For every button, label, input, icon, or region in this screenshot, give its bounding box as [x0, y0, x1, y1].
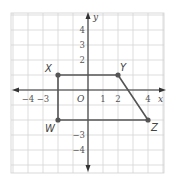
vertex-label-w: W [45, 123, 56, 134]
vertex-point-w [55, 117, 60, 122]
x-tick-label: −4 [22, 94, 35, 104]
x-tick-label: 1 [100, 94, 105, 104]
vertex-label-y: Y [120, 62, 127, 73]
x-tick-label: −3 [37, 94, 50, 104]
x-tick-label: 2 [115, 94, 120, 104]
x-tick-label: 4 [145, 94, 150, 104]
vertex-point-x [55, 72, 60, 77]
x-axis-right-arrow-icon [159, 88, 166, 93]
y-tick-label: 3 [80, 40, 85, 50]
x-axis-label: x [158, 94, 163, 104]
y-tick-label: −3 [72, 130, 85, 140]
vertex-label-z: Z [150, 122, 159, 133]
y-tick-label: 2 [80, 55, 85, 65]
vertex-point-y [115, 72, 120, 77]
vertex-point-z [145, 117, 150, 122]
y-tick-label: 4 [80, 25, 85, 35]
coordinate-plane: x y O −4−3124432−3−4 XYZW [0, 0, 174, 181]
y-axis-down-arrow-icon [86, 165, 91, 172]
y-axis-label: y [92, 12, 99, 22]
origin-label: O [77, 94, 85, 104]
vertex-label-x: X [44, 63, 53, 74]
y-tick-label: −4 [72, 145, 85, 155]
axes: x y O [12, 12, 166, 172]
